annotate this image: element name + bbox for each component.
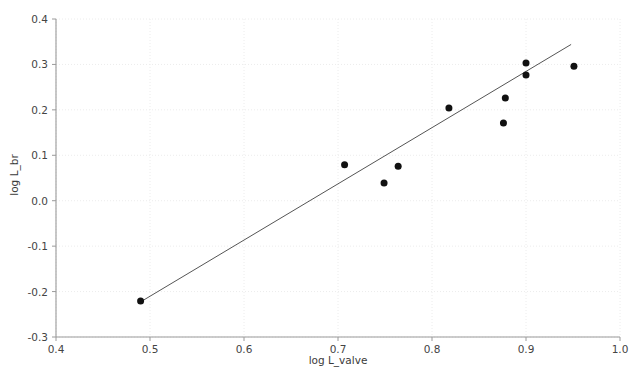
y-tick-label: 0.4	[31, 13, 48, 25]
data-point	[395, 163, 402, 170]
y-axis-title: log L_br	[8, 154, 21, 196]
scatter-plot-figure: 0.40.50.60.70.80.91.0 0.40.30.20.10.0-0.…	[0, 0, 639, 375]
x-tick-label: 0.4	[48, 343, 65, 355]
x-tick-label: 0.6	[236, 343, 253, 355]
data-point	[570, 63, 577, 70]
y-tick-label: 0.0	[31, 195, 48, 207]
y-tick-label: -0.1	[28, 240, 49, 252]
y-tick-label: 0.3	[31, 58, 48, 70]
data-point	[523, 71, 530, 78]
chart-canvas: 0.40.50.60.70.80.91.0 0.40.30.20.10.0-0.…	[0, 0, 639, 375]
y-tick-label: 0.1	[31, 149, 48, 161]
data-point	[502, 95, 509, 102]
data-point	[341, 161, 348, 168]
data-point	[381, 179, 388, 186]
y-tick-label: 0.2	[31, 104, 48, 116]
data-point	[500, 120, 507, 127]
x-tick-label: 0.8	[424, 343, 441, 355]
data-point	[523, 60, 530, 67]
x-axis-title: log L_valve	[309, 354, 368, 367]
data-point	[445, 105, 452, 112]
figure-background	[0, 0, 639, 375]
x-tick-label: 0.5	[142, 343, 159, 355]
y-tick-label: -0.3	[28, 331, 49, 343]
data-point	[137, 298, 144, 305]
x-tick-label: 0.9	[518, 343, 535, 355]
x-tick-label: 1.0	[612, 343, 629, 355]
y-tick-label: -0.2	[28, 286, 49, 298]
